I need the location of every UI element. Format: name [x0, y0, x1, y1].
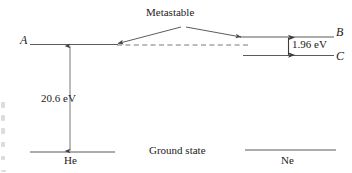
metastable-arrow-left: [118, 27, 181, 44]
energy-label-1-96-ev: 1.96 eV: [292, 39, 327, 50]
metastable-label: Metastable: [146, 7, 194, 18]
energy-level-diagram: A B C Metastable 1.96 eV 20.6 eV He Ne G…: [0, 0, 352, 173]
metastable-arrow-right: [186, 27, 241, 37]
energy-label-20-6-ev: 20.6 eV: [41, 93, 76, 104]
atom-label-ne: Ne: [281, 155, 294, 166]
atom-label-he: He: [64, 155, 77, 166]
level-label-c: C: [336, 50, 344, 62]
level-label-b: B: [336, 26, 343, 38]
ground-state-label: Ground state: [149, 145, 206, 156]
page-edge-artifacts: [0, 100, 14, 173]
level-label-a: A: [20, 34, 27, 46]
